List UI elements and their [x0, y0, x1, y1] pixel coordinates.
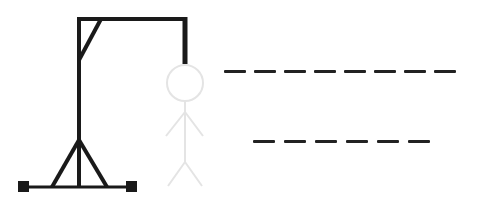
gallows-leg-right	[79, 140, 107, 187]
blank-dash	[377, 140, 399, 143]
letter-slot	[284, 52, 306, 73]
figure-head	[167, 65, 203, 101]
blank-dash	[314, 70, 336, 73]
blank-dash	[344, 70, 366, 73]
blank-dash	[404, 70, 426, 73]
gallows-brace	[79, 19, 101, 60]
letter-slot	[434, 52, 456, 73]
letter-slot	[253, 122, 275, 143]
hangman-board	[0, 0, 482, 198]
letter-slot	[377, 122, 399, 143]
blank-dash	[434, 70, 456, 73]
word-1	[224, 52, 456, 73]
gallows-leg-left	[52, 140, 79, 187]
gallows-foot-right	[126, 181, 137, 192]
figure-leg-right	[185, 162, 202, 186]
letter-slot	[224, 52, 246, 73]
letter-slot	[346, 122, 368, 143]
letter-slot	[314, 52, 336, 73]
blank-dash	[346, 140, 368, 143]
figure-leg-left	[168, 162, 185, 186]
figure-arm-left	[166, 112, 185, 136]
word-2	[253, 122, 430, 143]
letter-slot	[374, 52, 396, 73]
letter-slot	[344, 52, 366, 73]
blank-dash	[408, 140, 430, 143]
blank-dash	[284, 70, 306, 73]
letter-slot	[408, 122, 430, 143]
blank-dash	[224, 70, 246, 73]
letter-slot	[254, 52, 276, 73]
blank-dash	[284, 140, 306, 143]
hangman-figure	[166, 65, 203, 186]
letter-slot	[315, 122, 337, 143]
blank-dash	[374, 70, 396, 73]
blank-dash	[253, 140, 275, 143]
gallows-foot-left	[18, 181, 29, 192]
figure-arm-right	[185, 112, 203, 136]
blank-dash	[254, 70, 276, 73]
letter-slot	[284, 122, 306, 143]
letter-slot	[404, 52, 426, 73]
blank-dash	[315, 140, 337, 143]
gallows	[18, 17, 187, 192]
